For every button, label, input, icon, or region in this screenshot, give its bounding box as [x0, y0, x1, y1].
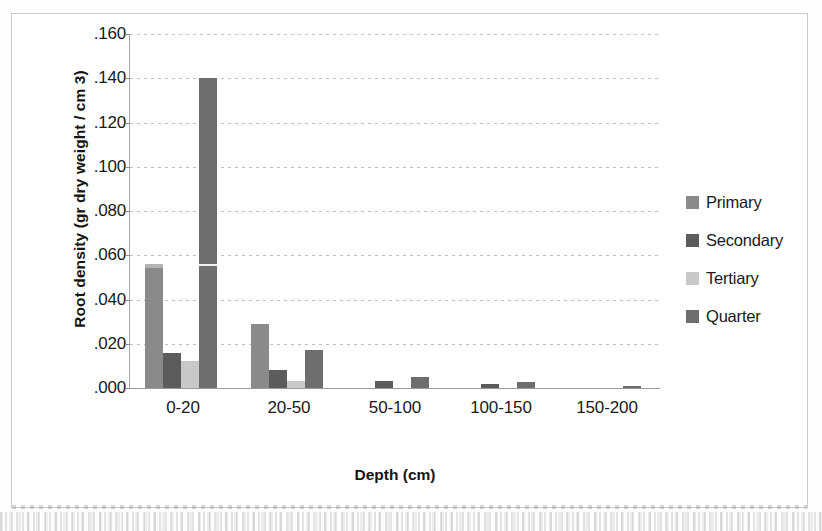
bar: [199, 78, 217, 388]
bar: [375, 381, 393, 388]
bar: [517, 382, 535, 388]
y-axis-tick-label: .020: [54, 335, 126, 352]
legend-item: Tertiary: [686, 259, 811, 297]
legend-item: Secondary: [686, 221, 811, 259]
y-axis-tick-label: .000: [54, 379, 126, 396]
y-axis-tick-label: .060: [54, 246, 126, 263]
bar-group: [251, 34, 323, 388]
legend-swatch-icon: [686, 234, 699, 247]
scanned-page: Root density (gr dry weight / cm 3) .160…: [0, 0, 822, 531]
axis-baseline: [130, 388, 660, 389]
bar-group: [569, 34, 641, 388]
x-axis-tick-label: 100-150: [448, 398, 554, 418]
x-axis-tick-label: 0-20: [130, 398, 236, 418]
bar-group: [145, 34, 217, 388]
legend-item: Primary: [686, 183, 811, 221]
y-axis-tick-label: .080: [54, 202, 126, 219]
bar: [251, 324, 269, 388]
bar: [481, 384, 499, 388]
y-axis-tick-label: .120: [54, 114, 126, 131]
plot-area: [130, 34, 660, 388]
bar: [411, 377, 429, 388]
legend-item-label: Tertiary: [706, 269, 759, 288]
bar-group: [463, 34, 535, 388]
bar-group: [357, 34, 429, 388]
legend-item-label: Secondary: [706, 231, 783, 250]
bar: [181, 361, 199, 388]
scan-streak: [199, 264, 217, 266]
x-axis-title: Depth (cm): [130, 466, 660, 484]
legend-item-label: Quarter: [706, 307, 761, 326]
bars-layer: [130, 34, 660, 388]
scan-noise-band: [0, 512, 822, 531]
bar: [269, 370, 287, 388]
chart-legend: PrimarySecondaryTertiaryQuarter: [686, 183, 811, 335]
scan-smudge: [12, 505, 807, 509]
bar: [287, 381, 305, 388]
y-axis-tick-labels: .160.140.120.100.080.060.040.020.000: [54, 0, 126, 531]
bar: [145, 264, 163, 388]
legend-item-label: Primary: [706, 193, 761, 212]
x-axis-tick-label: 20-50: [236, 398, 342, 418]
x-axis-tick-label: 50-100: [342, 398, 448, 418]
y-axis-tick-label: .100: [54, 158, 126, 175]
bar: [163, 353, 181, 388]
y-axis-tick-label: .160: [54, 25, 126, 42]
y-axis-tickmark: [125, 388, 130, 389]
y-axis-tick-label: .140: [54, 69, 126, 86]
legend-swatch-icon: [686, 310, 699, 323]
legend-swatch-icon: [686, 196, 699, 209]
bar: [623, 386, 641, 388]
x-axis-tick-label: 150-200: [554, 398, 660, 418]
legend-swatch-icon: [686, 272, 699, 285]
bar: [305, 350, 323, 388]
legend-item: Quarter: [686, 297, 811, 335]
y-axis-tick-label: .040: [54, 291, 126, 308]
x-axis-tick-labels: 0-2020-5050-100100-150150-200: [130, 398, 660, 424]
bar-top-cap: [145, 264, 163, 268]
